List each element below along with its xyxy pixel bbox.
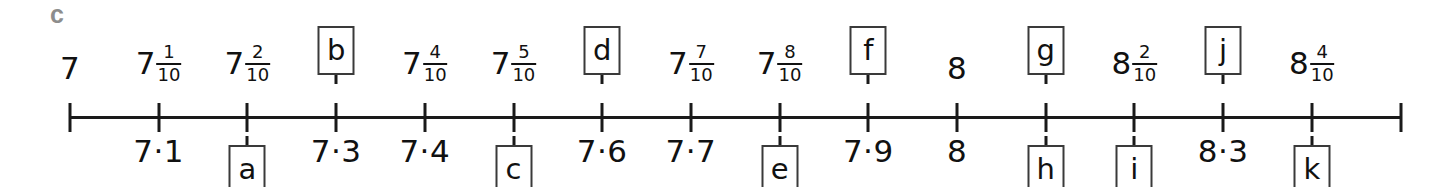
- answer-slot-e[interactable]: e: [761, 136, 798, 187]
- fraction-numerator: 4: [428, 43, 441, 62]
- fraction: 810: [778, 43, 803, 85]
- answer-box[interactable]: j: [1205, 26, 1242, 75]
- whole-part: 8: [1289, 48, 1309, 79]
- tick-label-below[interactable]: c: [495, 136, 532, 187]
- fraction-numerator: 1: [162, 43, 175, 62]
- whole-part: 7: [136, 48, 156, 79]
- tick-value-text: 8·3: [1198, 136, 1249, 167]
- tick-label-above: 7810: [757, 42, 803, 84]
- mixed-number: 8410: [1289, 42, 1335, 84]
- answer-box[interactable]: b: [318, 26, 355, 75]
- answer-slot-b[interactable]: b: [318, 26, 355, 84]
- tick-label-above: 7110: [136, 42, 182, 84]
- axis-tick: [601, 103, 604, 132]
- answer-slot-j[interactable]: j: [1205, 26, 1242, 84]
- fraction: 210: [245, 43, 270, 85]
- answer-slot-k[interactable]: k: [1293, 136, 1330, 187]
- mixed-number: 7810: [757, 42, 803, 84]
- answer-slot-f[interactable]: f: [850, 26, 887, 84]
- tick-value-text: 7·4: [399, 136, 450, 167]
- whole-part: 7: [757, 48, 777, 79]
- tick-label-above: 8210: [1112, 42, 1158, 84]
- answer-box-stem: [1310, 136, 1313, 145]
- mixed-number: 7110: [136, 42, 182, 84]
- fraction-numerator: 2: [1138, 43, 1151, 62]
- axis-tick: [956, 103, 959, 132]
- tick-label-above[interactable]: g: [1027, 26, 1064, 84]
- answer-box[interactable]: a: [229, 145, 266, 187]
- fraction-denominator: 10: [778, 66, 803, 85]
- answer-slot-h[interactable]: h: [1027, 136, 1064, 187]
- tick-value-text: 8: [947, 136, 967, 167]
- answer-slot-c[interactable]: c: [495, 136, 532, 187]
- whole-part: 7: [225, 48, 245, 79]
- answer-box[interactable]: g: [1027, 26, 1064, 75]
- fraction-denominator: 10: [1132, 66, 1157, 85]
- axis-tick: [1399, 103, 1402, 132]
- number-line-worksheet: c 771107·17210ab7·374107·47510cd7·677107…: [0, 0, 1452, 187]
- answer-box-stem: [1044, 75, 1047, 84]
- axis-tick: [778, 103, 781, 132]
- answer-box[interactable]: h: [1027, 145, 1064, 187]
- fraction-denominator: 10: [1310, 66, 1335, 85]
- answer-box[interactable]: i: [1116, 145, 1153, 187]
- fraction-numerator: 5: [517, 43, 530, 62]
- tick-label-above[interactable]: d: [584, 26, 621, 84]
- fraction-denominator: 10: [157, 66, 182, 85]
- whole-part: 7: [402, 48, 422, 79]
- tick-label-below[interactable]: a: [229, 136, 266, 187]
- tick-label-above[interactable]: b: [318, 26, 355, 84]
- tick-label-below: 7·7: [665, 136, 716, 167]
- axis-tick: [246, 103, 249, 132]
- tick-label-below[interactable]: k: [1293, 136, 1330, 187]
- fraction-numerator: 2: [251, 43, 264, 62]
- part-label: c: [50, 2, 64, 27]
- tick-label-above[interactable]: j: [1205, 26, 1242, 84]
- answer-box[interactable]: d: [584, 26, 621, 75]
- tick-label-below: 7·6: [577, 136, 628, 167]
- answer-box-stem: [1222, 75, 1225, 84]
- axis-tick: [423, 103, 426, 132]
- tick-label-above: 7210: [225, 42, 271, 84]
- axis-tick: [335, 103, 338, 132]
- tick-value-text: 7·6: [577, 136, 628, 167]
- whole-part: 7: [491, 48, 511, 79]
- answer-box-stem: [867, 75, 870, 84]
- answer-box[interactable]: c: [495, 145, 532, 187]
- fraction-denominator: 10: [423, 66, 448, 85]
- answer-slot-g[interactable]: g: [1027, 26, 1064, 84]
- tick-label-below: 8·3: [1198, 136, 1249, 167]
- axis-tick: [1310, 103, 1313, 132]
- tick-label-below[interactable]: i: [1116, 136, 1153, 187]
- axis-tick: [157, 103, 160, 132]
- axis-tick: [512, 103, 515, 132]
- answer-box[interactable]: k: [1293, 145, 1330, 187]
- answer-box[interactable]: e: [761, 145, 798, 187]
- tick-label-above: 7710: [668, 42, 714, 84]
- answer-slot-a[interactable]: a: [229, 136, 266, 187]
- fraction-denominator: 10: [245, 66, 270, 85]
- axis-tick: [1222, 103, 1225, 132]
- fraction: 210: [1132, 43, 1157, 85]
- tick-value-text: 7: [60, 53, 80, 84]
- tick-label-below[interactable]: h: [1027, 136, 1064, 187]
- tick-label-below[interactable]: e: [761, 136, 798, 187]
- mixed-number: 7510: [491, 42, 537, 84]
- tick-value-text: 8: [947, 53, 967, 84]
- axis-tick: [867, 103, 870, 132]
- answer-slot-i[interactable]: i: [1116, 136, 1153, 187]
- tick-label-above[interactable]: f: [850, 26, 887, 84]
- fraction-numerator: 4: [1315, 43, 1328, 62]
- tick-label-below: 7·4: [399, 136, 450, 167]
- tick-value-text: 7·7: [665, 136, 716, 167]
- tick-label-above: 7510: [491, 42, 537, 84]
- fraction: 510: [511, 43, 536, 85]
- tick-label-below: 7·9: [843, 136, 894, 167]
- answer-box-stem: [246, 136, 249, 145]
- whole-part: 7: [668, 48, 688, 79]
- answer-box[interactable]: f: [850, 26, 887, 75]
- answer-slot-d[interactable]: d: [584, 26, 621, 84]
- whole-part: 8: [1112, 48, 1132, 79]
- answer-box-stem: [778, 136, 781, 145]
- mixed-number: 8210: [1112, 42, 1158, 84]
